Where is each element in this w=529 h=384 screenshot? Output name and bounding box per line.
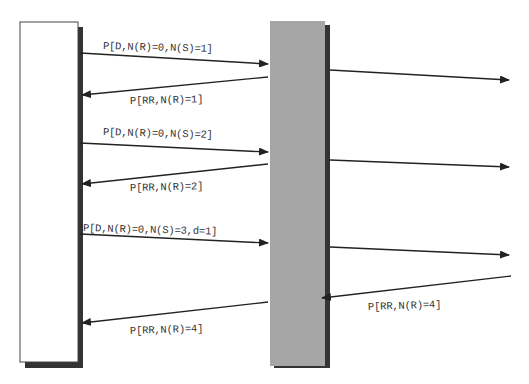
diagram-canvas: [0, 0, 529, 384]
message-label-9: P[RR,N(R)=4]: [368, 298, 442, 313]
arrow-msg-4: [80, 143, 268, 152]
message-label-2: P[RR,N(R)=1]: [130, 93, 204, 107]
message-label-5: P[RR,N(R)=2]: [130, 180, 204, 194]
arrow-msg-6: [330, 160, 509, 167]
arrow-msg-1: [80, 53, 268, 64]
arrow-msg-3: [330, 70, 509, 80]
middle-node-bar: [270, 21, 330, 368]
arrow-msg-9: [322, 276, 511, 298]
arrow-msg-8: [330, 247, 509, 255]
left-station-box: [20, 22, 83, 368]
arrow-msg-2: [82, 77, 268, 95]
sequence-diagram: P[D,N(R)=0,N(S)=1] P[RR,N(R)=1] P[D,N(R)…: [0, 0, 529, 384]
message-label-10: P[RR,N(R)=4]: [130, 322, 204, 337]
arrow-msg-10: [82, 302, 268, 323]
